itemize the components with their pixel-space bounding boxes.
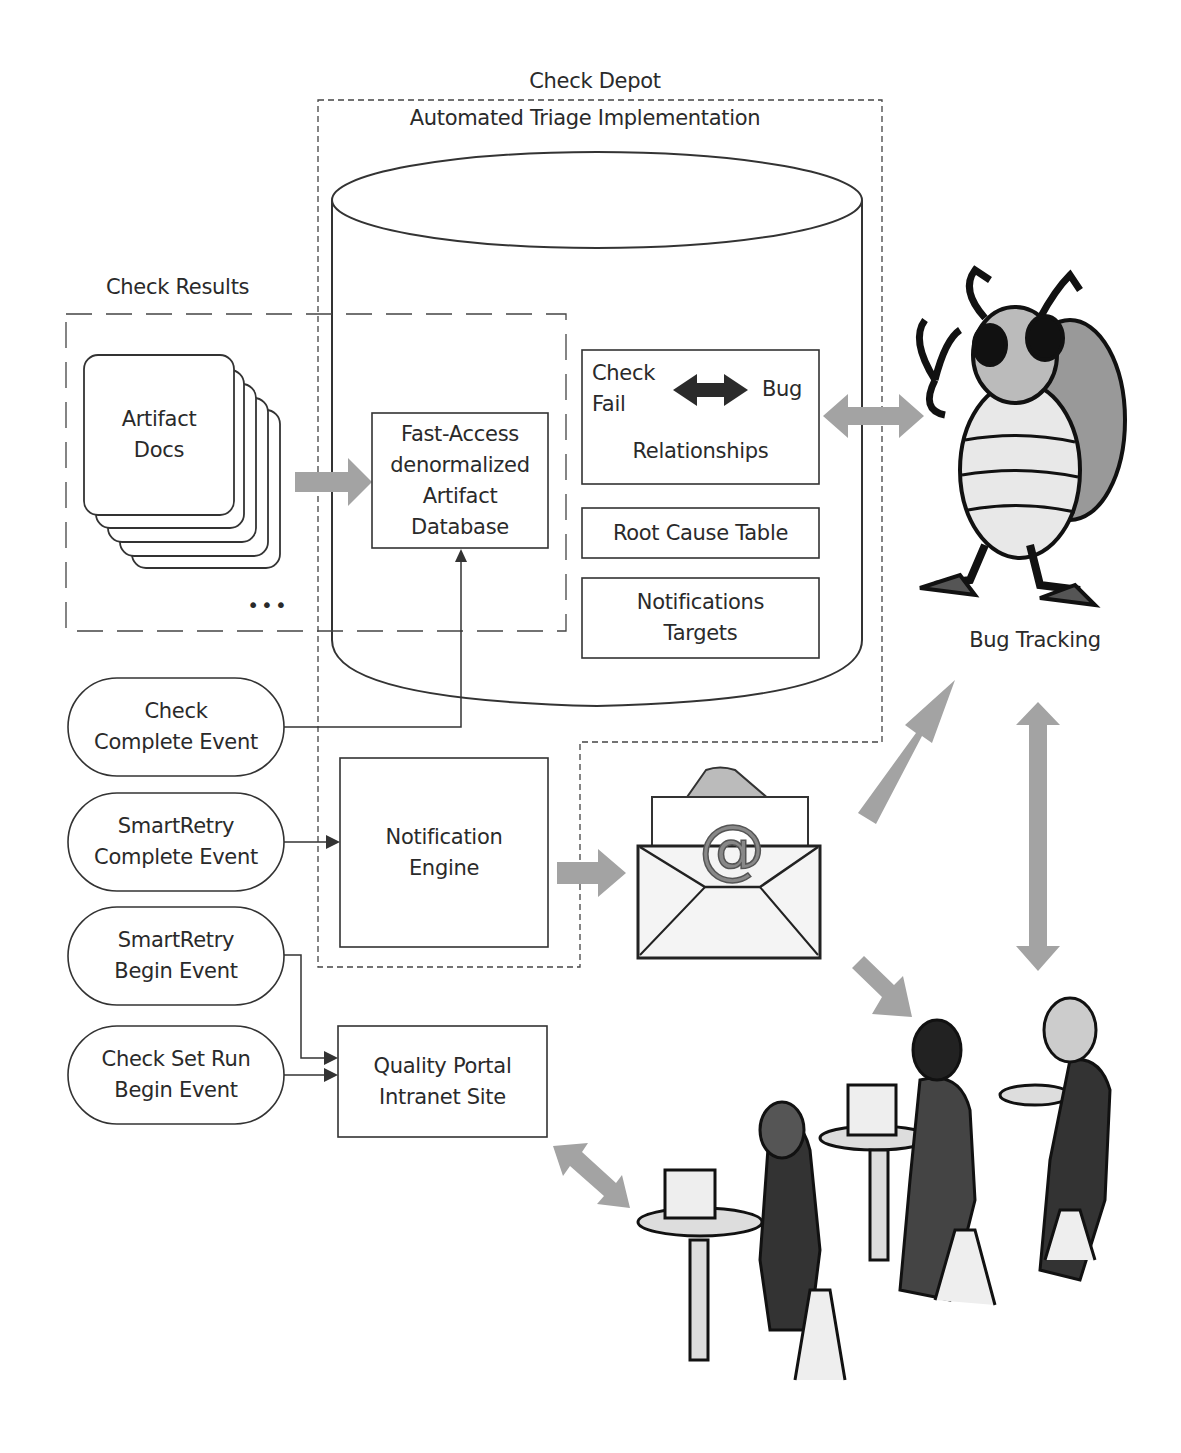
svg-text:@: @ [699, 811, 765, 888]
root-cause-table-label: Root Cause Table [613, 518, 788, 549]
event-label: SmartRetry Begin Event [114, 925, 237, 987]
automated-triage-subtitle: Automated Triage Implementation [360, 103, 810, 134]
fast-access-database-label: Fast-Access denormalized Artifact Databa… [390, 419, 529, 543]
relationships-bug-arrow [823, 394, 924, 438]
quality-portal-box[interactable]: Quality Portal Intranet Site [338, 1026, 547, 1137]
event-label: SmartRetry Complete Event [94, 811, 258, 873]
relationships-box[interactable]: Check Fail Bug Relationships [582, 350, 819, 484]
bugtracking-people-arrow [1016, 702, 1060, 971]
bug-illustration [919, 270, 1125, 605]
event-label: Check Complete Event [94, 696, 258, 758]
relationships-label: Relationships [582, 436, 819, 467]
check-results-label: Check Results [106, 272, 326, 303]
root-cause-table-box[interactable]: Root Cause Table [582, 508, 819, 558]
event-smartretry-begin[interactable]: SmartRetry Begin Event [68, 907, 284, 1005]
check-depot-title: Check Depot [430, 66, 760, 97]
bug-label: Bug [757, 374, 807, 405]
email-to-bugtracking-arrow [858, 680, 955, 824]
notification-engine-box[interactable]: Notification Engine [340, 758, 548, 947]
more-docs-ellipsis: ••• [238, 590, 298, 621]
event-check-set-run-begin[interactable]: Check Set Run Begin Event [68, 1026, 284, 1124]
artifact-docs-label: Artifact Docs [122, 404, 197, 466]
quality-portal-label: Quality Portal Intranet Site [374, 1051, 512, 1113]
notifications-targets-label: Notifications Targets [637, 587, 765, 649]
engine-to-email-arrow [557, 849, 626, 897]
portal-people-arrow [553, 1143, 630, 1208]
notification-engine-label: Notification Engine [386, 822, 503, 884]
docs-to-db-arrow [295, 458, 372, 506]
artifact-docs[interactable]: Artifact Docs [84, 355, 234, 515]
email-to-people-arrow [852, 956, 912, 1017]
event-smartretry-complete[interactable]: SmartRetry Complete Event [68, 793, 284, 891]
event-check-complete[interactable]: Check Complete Event [68, 678, 284, 776]
check-fail-label: Check Fail [592, 358, 655, 420]
email-envelope-icon: @ [638, 768, 820, 959]
people-illustration [638, 998, 1110, 1380]
notifications-targets-box[interactable]: Notifications Targets [582, 578, 819, 658]
fast-access-database-box[interactable]: Fast-Access denormalized Artifact Databa… [372, 413, 548, 548]
bug-tracking-label: Bug Tracking [940, 625, 1130, 656]
event-label: Check Set Run Begin Event [102, 1044, 251, 1106]
